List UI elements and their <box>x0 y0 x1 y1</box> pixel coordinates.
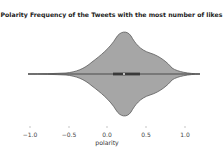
x-tick-label: −0.5 <box>62 131 77 138</box>
x-ticks <box>30 126 185 128</box>
x-axis-label: polarity <box>95 139 119 146</box>
iqr-box <box>113 73 140 76</box>
median-marker <box>123 73 125 75</box>
x-tick-label: 0.0 <box>102 131 112 138</box>
x-tick-label: −1.0 <box>23 131 38 138</box>
x-tick-label: 1.0 <box>180 131 190 138</box>
x-tick-label: 0.5 <box>141 131 151 138</box>
